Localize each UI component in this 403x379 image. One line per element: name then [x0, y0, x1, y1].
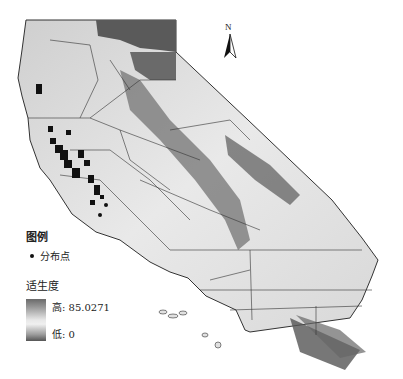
north-label: N	[225, 22, 232, 32]
legend-item-points: 分布点	[30, 248, 110, 263]
ramp-low-label: 低: 0	[52, 326, 110, 341]
legend-item-label: 分布点	[40, 248, 70, 263]
legend-title: 图例	[26, 228, 110, 244]
channel-islands	[159, 310, 221, 348]
color-ramp: 高: 85.0271 低: 0	[26, 299, 110, 341]
point-symbol-icon	[30, 254, 34, 258]
ramp-high-label: 高: 85.0271	[52, 299, 110, 314]
legend: 图例 分布点 适生度 高: 85.0271 低: 0	[26, 228, 110, 341]
ramp-bar	[26, 299, 46, 341]
ramp-title: 适生度	[26, 277, 110, 293]
